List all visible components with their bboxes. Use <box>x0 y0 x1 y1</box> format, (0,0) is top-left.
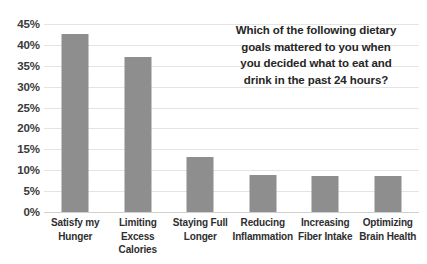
category-label-line: Excess Calories <box>102 230 174 257</box>
y-axis-tick-label: 15% <box>0 144 40 155</box>
bar-slot <box>44 24 107 212</box>
category-label-line: Longer <box>164 230 236 244</box>
x-axis-category-label: LimitingExcess Calories <box>102 216 174 257</box>
y-axis-tick-label: 35% <box>0 61 40 72</box>
category-label-line: Increasing <box>289 216 361 230</box>
y-axis-tick-label: 45% <box>0 19 40 30</box>
category-label-line: Reducing <box>227 216 299 230</box>
chart-title: Which of the following dietarygoals matt… <box>216 22 416 88</box>
y-axis-tick-label: 5% <box>0 186 40 197</box>
category-label-line: Fiber Intake <box>289 230 361 244</box>
x-axis-category-label: ReducingInflammation <box>227 216 299 243</box>
bar-chart: 45%40%35%30%25%20%15%10%5%0% Satisfy myH… <box>0 0 427 264</box>
x-axis-category-label: IncreasingFiber Intake <box>289 216 361 243</box>
category-label-line: Optimizing <box>352 216 424 230</box>
x-axis-category-labels: Satisfy myHungerLimitingExcess CaloriesS… <box>44 216 419 260</box>
x-axis-category-label: Staying FullLonger <box>164 216 236 243</box>
bar[interactable] <box>312 176 339 212</box>
x-axis-category-label: OptimizingBrain Health <box>352 216 424 243</box>
category-label-line: Staying Full <box>164 216 236 230</box>
category-label-line: Limiting <box>102 216 174 230</box>
chart-title-line: Which of the following dietary <box>216 22 416 39</box>
x-axis-category-label: Satisfy myHunger <box>39 216 111 243</box>
bar[interactable] <box>62 34 89 212</box>
bar[interactable] <box>124 57 151 212</box>
chart-title-line: drink in the past 24 hours? <box>216 72 416 89</box>
category-label-line: Hunger <box>39 230 111 244</box>
y-axis-tick-label: 10% <box>0 165 40 176</box>
chart-title-line: you decided what to eat and <box>216 55 416 72</box>
category-label-line: Inflammation <box>227 230 299 244</box>
y-axis-tick-label: 25% <box>0 103 40 114</box>
bar-slot <box>107 24 170 212</box>
chart-title-line: goals mattered to you when <box>216 39 416 56</box>
bar[interactable] <box>249 175 276 212</box>
category-label-line: Brain Health <box>352 230 424 244</box>
category-label-line: Satisfy my <box>39 216 111 230</box>
y-axis-tick-label: 30% <box>0 82 40 93</box>
bar[interactable] <box>187 157 214 212</box>
bar[interactable] <box>374 176 401 212</box>
y-axis-tick-label: 40% <box>0 40 40 51</box>
y-axis-tick-label: 20% <box>0 123 40 134</box>
y-axis: 45%40%35%30%25%20%15%10%5%0% <box>0 24 40 212</box>
y-axis-tick-label: 0% <box>0 207 40 218</box>
axis-baseline <box>44 212 419 213</box>
